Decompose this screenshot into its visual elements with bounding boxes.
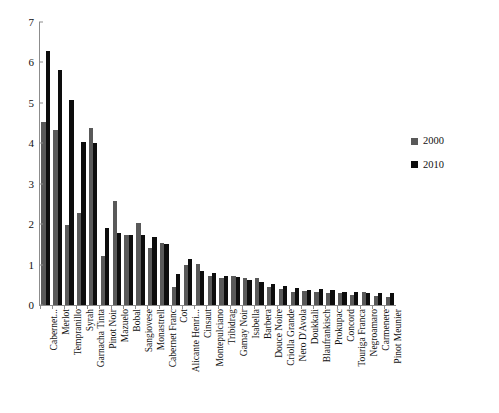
bar-2010 [212,273,216,305]
bar-group [301,22,313,305]
x-axis-tick-label: Syrah [86,309,96,331]
legend-label: 2000 [423,136,444,147]
bar-2010 [117,233,121,305]
bar-2010 [46,51,50,305]
x-axis-tick-label: Prokupac [335,309,345,345]
x-axis-tick-label: Pinot Meunier [394,309,404,364]
bar-2010 [200,271,204,305]
bar-group [111,22,123,305]
x-axis-tick-label: Criolla Grande [287,309,297,366]
bar-2010 [93,143,97,305]
bar-group [76,22,88,305]
bar-group [325,22,337,305]
x-axis-tick-label: Tempranillo [74,309,84,355]
bar-2010 [58,70,62,305]
bar-group [182,22,194,305]
x-axis-tick-label: Merlot [62,309,72,335]
legend-swatch-icon [411,161,418,168]
x-axis-tick-label: Sangiovese [145,309,155,352]
bar-series-layer [40,22,396,305]
bar-group [242,22,254,305]
x-axis-tick-label: Cinsaut [204,309,214,338]
legend-label: 2010 [423,160,444,171]
bar-group [218,22,230,305]
bar-2010 [224,276,228,306]
x-axis-tick-label: Isabella [252,309,262,339]
y-axis-tick-mark [39,224,43,225]
bar-2010 [259,282,263,305]
bar-2010 [129,235,133,305]
y-axis-tick-mark [39,62,43,63]
bar-2010 [390,293,394,305]
x-axis-tick-label: Touriga Franca [358,309,368,367]
y-axis-tick-mark [39,183,43,184]
legend-swatch-icon [411,138,418,145]
bar-group [289,22,301,305]
bar-group [230,22,242,305]
bar-2010 [176,274,180,305]
x-axis-tick-label: Monastrell [157,309,167,350]
bar-2010 [378,293,382,305]
x-axis-tick-label: Tribidrag [228,309,238,345]
bar-2010 [295,288,299,305]
bar-group [337,22,349,305]
bar-group [99,22,111,305]
bar-group [254,22,266,305]
y-axis-tick-mark [39,102,43,103]
x-axis-tick-label: Mazuelo [121,309,131,342]
bar-group [171,22,183,305]
bar-group [384,22,396,305]
bar-2010 [141,235,145,305]
bar-2010 [307,290,311,305]
bar-2010 [319,289,323,305]
x-axis-tick-label: Barbera [264,309,274,339]
bar-2010 [271,284,275,305]
bar-2010 [105,228,109,305]
x-axis-tick-label: Carmenere [382,309,392,351]
x-axis-tick-label: Pinot Noir [109,309,119,349]
y-axis-tick-mark [39,305,43,306]
bar-2010 [247,280,251,305]
y-axis-tick-mark [39,22,43,23]
bar-2010 [236,277,240,305]
bar-2010 [152,237,156,305]
bar-group [277,22,289,305]
x-axis-tick-label: Doukkali [311,309,321,344]
bar-2010 [354,292,358,305]
bar-group [64,22,76,305]
bar-group [135,22,147,305]
bar-2010 [81,142,85,305]
x-axis-tick-label: Cot [180,309,190,323]
bar-2010 [330,290,334,305]
bar-2010 [366,293,370,305]
x-axis-tick-label: Cabernet Franc [169,309,179,367]
bar-group [372,22,384,305]
x-axis-tick-label: Alicante Henri... [192,309,202,372]
x-axis-tick-label: Montepulciano [216,309,226,367]
legend: 20002010 [411,136,444,183]
x-axis-tick-label: Concord [347,309,357,342]
plot-area: 01234567 [40,22,396,305]
x-axis-tick-label: Blaufrankisch [323,309,333,362]
bar-2010 [342,292,346,305]
bar-group [360,22,372,305]
bar-2010 [283,286,287,305]
bar-group [147,22,159,305]
bar-group [349,22,361,305]
bar-group [87,22,99,305]
x-axis-tick-label: Bobal [133,309,143,332]
bar-group [313,22,325,305]
x-axis-tick-label: Gamay Noir [240,309,250,356]
y-axis-tick-mark [39,143,43,144]
bar-group [194,22,206,305]
bar-group [123,22,135,305]
x-axis-tick-label: Cabernet... [50,309,60,350]
x-axis-tick-label: Garnacha Tinta [97,309,107,367]
legend-item: 2000 [411,136,444,147]
bar-group [40,22,52,305]
bar-group [159,22,171,305]
bar-group [52,22,64,305]
bar-group [206,22,218,305]
bar-chart: 01234567 Cabernet...MerlotTempranilloSyr… [0,0,499,413]
x-axis-tick-label: Douce Noire [275,309,285,358]
